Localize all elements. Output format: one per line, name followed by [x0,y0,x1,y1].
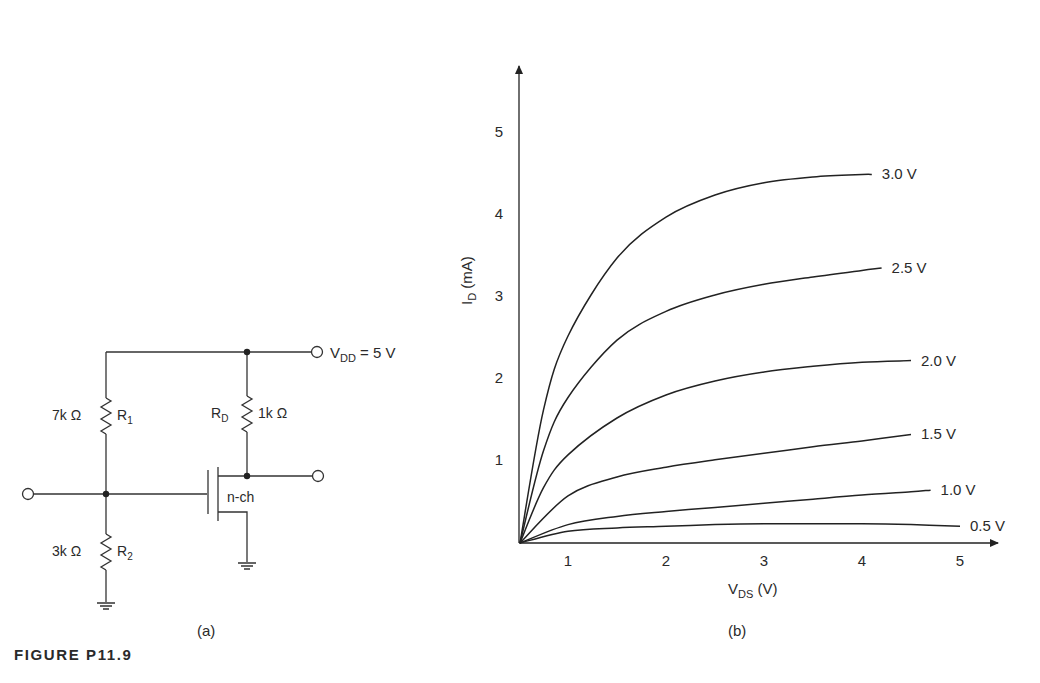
chart-curves [520,174,960,543]
figure-canvas: VDD = 5 V 7k Ω R1 3k Ω R2 RD 1k Ω n-ch (… [0,0,1040,683]
r1-name-label: R1 [117,407,133,426]
panel-a-label: (a) [197,622,215,639]
x-tick-label: 3 [760,552,768,569]
x-tick-labels: 12345 [564,552,964,569]
transistor-type-label: n-ch [227,489,254,505]
nmos-transistor-icon [208,467,247,562]
circuit-schematic [34,352,312,609]
curve-label: 2.0 V [921,352,956,369]
junction-dot-vdd [244,349,250,355]
curve-label: 0.5 V [970,517,1005,534]
resistor-rd-icon [242,396,252,432]
r2-name-label: R2 [117,543,133,562]
curve-labels: 3.0 V2.5 V2.0 V1.5 V1.0 V0.5 V [882,165,1005,534]
resistor-r1-icon [101,398,111,434]
curve-label: 3.0 V [882,165,917,182]
rd-value-label: 1k Ω [258,405,287,421]
curve-label: 1.0 V [941,481,976,498]
r2-value-label: 3k Ω [52,543,81,559]
rd-name-label: RD [211,405,228,424]
curve-vgs-20 [520,361,911,543]
ground-icon-r2 [97,603,115,609]
x-tick-label: 4 [858,552,866,569]
output-terminal-icon [313,471,324,482]
curve-vgs-05 [520,524,960,543]
curve-vgs-10 [520,490,931,543]
panel-b-label: (b) [728,622,746,639]
junction-dot-drain [244,473,250,479]
curve-label: 2.5 V [892,259,927,276]
figure-caption: FIGURE P11.9 [14,646,132,663]
curve-vgs-15 [520,434,911,543]
x-axis-label: VDS (V) [728,580,777,600]
curve-vgs-25 [520,268,882,543]
r1-value-label: 7k Ω [52,407,81,423]
y-tick-label: 1 [495,451,503,468]
y-tick-labels: 12345 [495,123,503,468]
x-tick-label: 1 [564,552,572,569]
x-tick-label: 5 [956,552,964,569]
y-tick-label: 5 [495,123,503,140]
vdd-label: VDD = 5 V [330,344,396,364]
junction-dot-gate [103,491,109,497]
ground-icon-source [238,563,256,569]
y-tick-label: 2 [495,369,503,386]
curve-label: 1.5 V [921,425,956,442]
input-terminal-icon [23,489,34,500]
vdd-terminal-icon [312,347,323,358]
curve-vgs-30 [520,174,872,543]
y-tick-label: 4 [495,205,503,222]
y-tick-label: 3 [495,287,503,304]
y-axis-label: ID (mA) [458,256,478,305]
chart-axes [519,66,998,543]
x-tick-label: 2 [662,552,670,569]
resistor-r2-icon [101,534,111,570]
